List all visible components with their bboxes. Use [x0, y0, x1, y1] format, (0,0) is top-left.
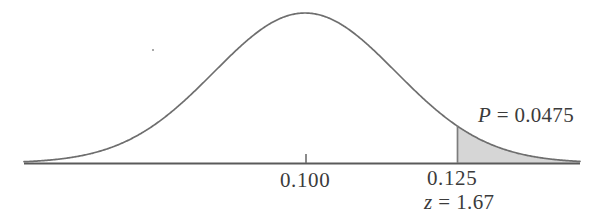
p-number: 0.0475	[514, 103, 574, 127]
mean-axis-label: 0.100	[280, 168, 330, 193]
normal-curve-figure: P = 0.0475 0.100 0.125 z = 1.67	[0, 0, 600, 221]
p-value-label: P = 0.0475	[478, 103, 574, 128]
p-symbol: P	[478, 103, 491, 127]
bell-curve-path	[24, 13, 580, 162]
z-score-label: z = 1.67	[424, 190, 494, 215]
z-equals: =	[433, 190, 457, 214]
scan-speck	[152, 49, 154, 51]
tail-shaded-region	[457, 126, 580, 163]
p-equals: =	[491, 103, 514, 127]
critical-value-axis-label: 0.125	[427, 166, 477, 191]
z-symbol: z	[424, 190, 433, 214]
z-number: 1.67	[456, 190, 494, 214]
